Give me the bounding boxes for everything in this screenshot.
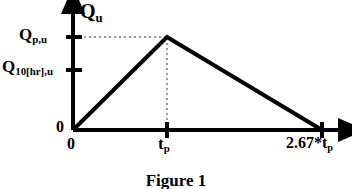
x-tick-label-base-time: 2.67*tp [286,135,333,151]
y-axis-title: Qu [80,1,103,21]
y-tick-label-ten-hr-subscript: 10[hr],u [15,65,53,77]
x-tick-label-base-time-subscript: p [327,142,333,153]
hydrograph-curve [73,37,322,130]
x-tick-label-tp-symbol: t [158,134,164,153]
y-tick-label-peak: Qp,u [19,26,47,43]
y-tick-label-ten-hr: Q10[hr],u [2,58,53,75]
y-axis-title-subscript: u [96,11,103,25]
y-tick-label-peak-symbol: Q [19,25,32,44]
x-tick-label-tp-subscript: p [164,142,170,154]
figure-caption: Figure 1 [0,172,352,189]
y-tick-label-ten-hr-symbol: Q [2,57,15,76]
x-tick-label-base-time-prefix: 2.67*t [286,134,327,151]
x-tick-label-tp: tp [158,135,170,152]
y-origin-label: 0 [56,119,64,135]
x-origin-label: 0 [67,136,75,152]
y-axis-title-symbol: Q [80,0,96,22]
figure-container: Qu Qp,u Q10[hr],u 0 0 tp 2.67*tp Figure … [0,0,352,189]
y-tick-label-peak-subscript: p,u [32,33,47,45]
hydrograph-plot [0,0,352,189]
